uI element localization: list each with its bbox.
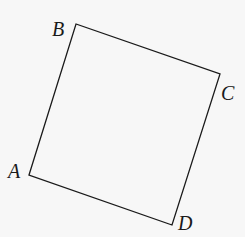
vertex-label-b: B: [52, 18, 64, 40]
vertex-label-c: C: [221, 82, 235, 104]
vertex-label-a: A: [6, 160, 21, 182]
square-abcd: [29, 24, 220, 225]
square-figure: A B C D: [0, 0, 245, 237]
vertex-label-d: D: [177, 212, 193, 234]
diagram-canvas: A B C D: [0, 0, 245, 237]
